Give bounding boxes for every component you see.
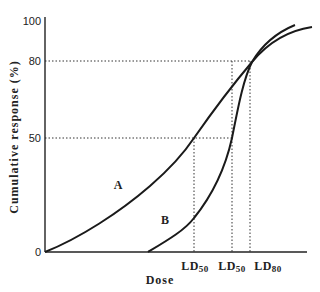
reference-lines: [45, 61, 250, 252]
y-tick-80: 80: [29, 55, 41, 67]
curve-a-label: A: [114, 178, 123, 192]
y-tick-100: 100: [23, 15, 41, 27]
y-axis-label: Cumulative response (%): [7, 60, 21, 213]
ld80-label: LD80: [254, 259, 282, 274]
dose-response-chart: 100 80 50 0 Cumulative response (%) Dose…: [0, 0, 320, 292]
ld50-b-label: LD50: [218, 259, 246, 274]
curve-b-label: B: [161, 213, 169, 227]
ld50-a-label: LD50: [181, 259, 209, 274]
y-tick-50: 50: [29, 132, 41, 144]
axes: [45, 17, 307, 252]
y-tick-0: 0: [35, 246, 41, 258]
x-axis-label: Dose: [146, 273, 175, 287]
